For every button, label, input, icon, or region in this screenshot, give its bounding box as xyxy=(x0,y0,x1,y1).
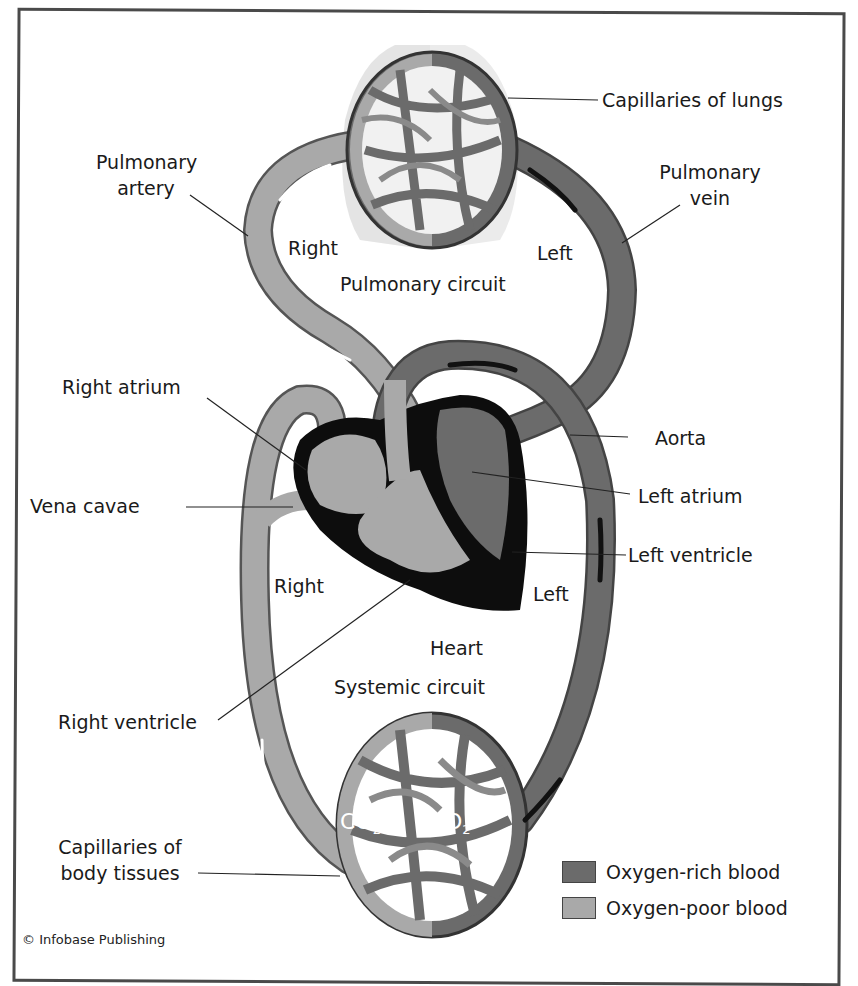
label-co2: CO2 xyxy=(340,810,381,842)
legend-label-oxygen-rich: Oxygen-rich blood xyxy=(606,861,780,883)
label-vena-cavae: Vena cavae xyxy=(30,494,140,518)
label-capillaries-body-line1: Capillaries of xyxy=(40,835,200,859)
label-capillaries-body-line2: body tissues xyxy=(40,861,200,885)
lung-capillary-bed xyxy=(347,52,517,248)
legend-item-oxygen-rich: Oxygen-rich blood xyxy=(562,854,788,890)
label-pulmonary-vein-line2: vein xyxy=(650,186,770,210)
label-o2: O2 xyxy=(445,810,471,842)
copyright: © Infobase Publishing xyxy=(22,932,165,947)
label-aorta: Aorta xyxy=(655,426,706,450)
legend-item-oxygen-poor: Oxygen-poor blood xyxy=(562,890,788,926)
label-heart: Heart xyxy=(430,636,483,660)
label-left-atrium: Left atrium xyxy=(638,484,743,508)
legend-swatch-oxygen-poor xyxy=(562,897,596,919)
label-left-pulmonary: Left xyxy=(537,241,573,265)
label-pulmonary-circuit: Pulmonary circuit xyxy=(340,272,506,296)
label-left-systemic: Left xyxy=(533,582,569,606)
label-pulmonary-artery-line2: artery xyxy=(96,176,196,200)
legend-label-oxygen-poor: Oxygen-poor blood xyxy=(606,897,788,919)
label-right-pulmonary: Right xyxy=(288,236,338,260)
label-left-ventricle: Left ventricle xyxy=(628,543,753,567)
label-right-systemic: Right xyxy=(274,574,324,598)
label-pulmonary-artery-line1: Pulmonary xyxy=(96,150,196,174)
legend-swatch-oxygen-rich xyxy=(562,861,596,883)
label-right-ventricle: Right ventricle xyxy=(58,710,197,734)
legend: Oxygen-rich blood Oxygen-poor blood xyxy=(562,854,788,926)
label-systemic-circuit: Systemic circuit xyxy=(334,675,485,699)
label-capillaries-lungs: Capillaries of lungs xyxy=(602,88,783,112)
label-right-atrium: Right atrium xyxy=(62,375,181,399)
label-pulmonary-vein-line1: Pulmonary xyxy=(650,160,770,184)
